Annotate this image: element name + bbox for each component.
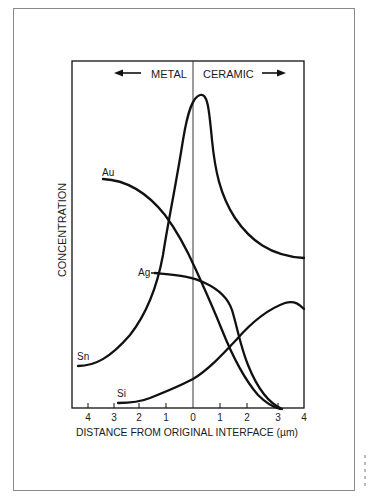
curve-si [118, 302, 304, 403]
y-axis-label: CONCENTRATION [56, 183, 68, 277]
x-tick-label: 2 [136, 412, 142, 423]
series-label-sn: Sn [77, 351, 89, 362]
x-tick-label: 1 [163, 412, 169, 423]
x-tick-label: 4 [301, 412, 307, 423]
series-curves [78, 95, 304, 409]
chart: METAL CERAMIC 4 3 2 1 0 1 2 3 4 DISTANCE… [0, 0, 371, 501]
x-tick-label: 4 [85, 412, 91, 423]
metal-arrow-icon [114, 70, 141, 77]
x-tick-label: 1 [217, 412, 223, 423]
metal-label: METAL [151, 68, 187, 80]
series-label-au: Au [102, 167, 114, 178]
curve-sn [78, 95, 304, 366]
x-tick-label: 3 [275, 412, 281, 423]
x-ticks [88, 403, 278, 408]
series-label-ag: Ag [138, 267, 150, 278]
x-tick-label: 0 [190, 412, 196, 423]
x-tick-labels: 4 3 2 1 0 1 2 3 4 [85, 412, 307, 423]
margin-marks [364, 455, 368, 495]
ceramic-label: CERAMIC [203, 68, 254, 80]
curve-au [103, 179, 280, 409]
series-label-si: Si [117, 388, 126, 399]
x-tick-label: 3 [111, 412, 117, 423]
ceramic-arrow-icon [262, 70, 286, 77]
x-axis-label: DISTANCE FROM ORIGINAL INTERFACE (µm) [76, 426, 298, 438]
x-tick-label: 2 [244, 412, 250, 423]
